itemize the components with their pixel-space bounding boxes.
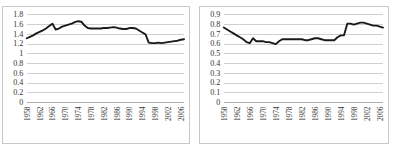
y-axis-tick-label: 0.8 <box>13 59 23 68</box>
line-chart-right: 00.10.20.30.40.50.60.70.80.9 19581962196… <box>200 7 388 143</box>
x-axis-tick-label: 1962 <box>36 106 45 121</box>
y-axis-labels-right: 00.10.20.30.40.50.60.70.80.9 <box>210 10 220 107</box>
x-axis-tick-label: 2002 <box>164 106 173 121</box>
x-axis-tick-label: 1998 <box>350 106 359 121</box>
y-axis-tick-label: 0.1 <box>210 88 220 97</box>
y-axis-tick-label: 1.4 <box>13 30 23 39</box>
y-axis-tick-label: 0.6 <box>13 69 23 78</box>
data-series-path <box>224 23 383 44</box>
x-axis-tick-label: 1970 <box>61 106 70 121</box>
x-axis-tick-label: 1990 <box>125 106 134 121</box>
x-axis-tick-label: 1986 <box>113 106 122 121</box>
x-axis-tick-label: 1970 <box>259 106 268 121</box>
y-axis-tick-label: 0.4 <box>13 78 23 87</box>
line-chart-left: 00.20.40.60.811.21.41.61.8 1958196219661… <box>3 7 189 143</box>
x-axis-labels-right: 1958196219661970197419781982198619901994… <box>220 106 385 121</box>
x-axis-tick-label: 2002 <box>363 106 372 121</box>
y-axis-tick-label: 0.2 <box>13 88 23 97</box>
x-axis-tick-label: 1994 <box>138 106 147 121</box>
y-axis-tick-label: 0.5 <box>210 49 220 58</box>
x-axis-tick-label: 1998 <box>151 106 160 121</box>
x-axis-tick-label: 1958 <box>23 106 32 121</box>
x-axis-tick-label: 1966 <box>246 106 255 121</box>
y-axis-tick-label: 1.6 <box>13 20 23 29</box>
x-axis-tick-label: 1966 <box>48 106 57 121</box>
y-axis-tick-label: 0.7 <box>210 30 220 39</box>
x-axis-tick-label: 1958 <box>220 106 229 121</box>
y-axis-tick-label: 0.6 <box>210 39 220 48</box>
y-axis-tick-label: 1.2 <box>13 39 23 48</box>
x-axis-labels-left: 1958196219661970197419781982198619901994… <box>23 106 186 121</box>
series-line-right <box>224 23 383 44</box>
y-axis-tick-label: 0.2 <box>210 78 220 87</box>
y-axis-tick-label: 0 <box>216 98 220 107</box>
x-axis-tick-label: 1982 <box>100 106 109 121</box>
y-axis-tick-label: 0 <box>19 98 23 107</box>
y-axis-labels-left: 00.20.40.60.811.21.41.61.8 <box>13 10 23 107</box>
x-axis-tick-label: 1978 <box>87 106 96 121</box>
y-axis-tick-label: 0.3 <box>210 69 220 78</box>
charts-container: 00.20.40.60.811.21.41.61.8 1958196219661… <box>0 0 394 151</box>
x-axis-tick-label: 1982 <box>298 106 307 121</box>
chart-panel-left: 00.20.40.60.811.21.41.61.8 1958196219661… <box>2 6 190 144</box>
x-axis-tick-label: 1974 <box>74 106 83 121</box>
y-axis-tick-label: 0.9 <box>210 10 220 19</box>
x-axis-tick-label: 1986 <box>311 106 320 121</box>
y-axis-tick-label: 0.8 <box>210 20 220 29</box>
x-axis-tick-label: 1974 <box>272 106 281 121</box>
x-axis-tick-label: 1978 <box>285 106 294 121</box>
x-axis-tick-label: 1990 <box>324 106 333 121</box>
y-axis-tick-label: 1.8 <box>13 10 23 19</box>
x-axis-tick-label: 2006 <box>177 106 186 121</box>
y-axis-tick-label: 0.4 <box>210 59 220 68</box>
chart-panel-right: 00.10.20.30.40.50.60.70.80.9 19581962196… <box>199 6 389 144</box>
x-axis-tick-label: 1994 <box>337 106 346 121</box>
x-axis-tick-label: 2006 <box>376 106 385 121</box>
y-axis-tick-label: 1 <box>19 49 23 58</box>
x-axis-tick-label: 1962 <box>233 106 242 121</box>
gridlines-right <box>224 15 383 103</box>
